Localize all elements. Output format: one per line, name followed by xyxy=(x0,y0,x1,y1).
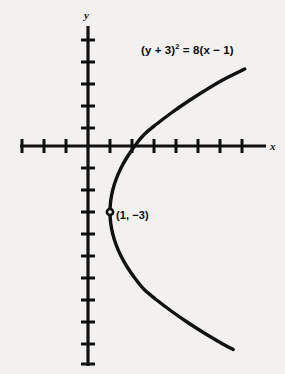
parabola-figure: y x (y + 3)2 = 8(x − 1) (1, −3) Graph of… xyxy=(0,0,285,374)
vertex-point-label: (1, −3) xyxy=(116,209,149,221)
y-axis-label: y xyxy=(84,10,89,21)
equation-rhs: = 8(x − 1) xyxy=(183,44,234,56)
vertex-marker xyxy=(107,209,113,215)
x-axis-label: x xyxy=(270,141,276,152)
equation-annotation: (y + 3)2 = 8(x − 1) xyxy=(141,43,234,56)
equation-lhs: (y + 3) xyxy=(141,44,175,56)
equation-exponent: 2 xyxy=(175,42,179,51)
